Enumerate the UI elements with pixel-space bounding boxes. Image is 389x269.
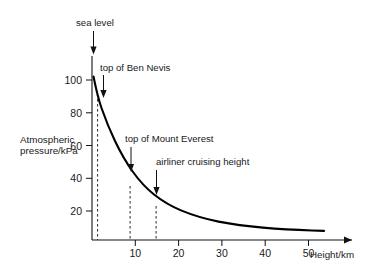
annotation-label-sea-level: sea level (76, 17, 114, 28)
pressure-curve-group (94, 77, 325, 231)
annotation-sea-level: sea level (76, 17, 114, 55)
annotation-label-airliner: airliner cruising height (156, 156, 250, 167)
annotation-label-ben-nevis: top of Ben Nevis (100, 62, 171, 73)
x-tick-label-10: 10 (129, 247, 141, 259)
axis-titles: Atmospheric pressure/kPa Height/km (20, 134, 354, 260)
x-tick-label-40: 40 (259, 247, 271, 259)
x-axis-arrow-icon (344, 237, 352, 244)
annotation-arrow-icon-ben-nevis (100, 90, 106, 98)
y-axis-title-line1: Atmospheric (20, 134, 75, 145)
x-axis-tick-labels: 10 20 30 40 50 (129, 247, 314, 259)
annotation-arrow-icon-sea-level (90, 47, 96, 55)
x-axis-ticks (135, 240, 308, 246)
y-tick-label-80: 80 (70, 107, 82, 119)
y-axis-ticks (86, 80, 92, 211)
y-tick-label-20: 20 (70, 205, 82, 217)
x-tick-label-20: 20 (173, 247, 185, 259)
y-axis-title-line2: pressure/kPa (20, 145, 78, 156)
annotation-ben-nevis: top of Ben Nevis (100, 62, 171, 98)
x-axis-title: Height/km (310, 249, 354, 260)
atmospheric-pressure-curve (94, 77, 325, 231)
annotation-label-mount-everest: top of Mount Everest (125, 133, 214, 144)
chart-svg: 100 80 60 40 20 10 20 30 40 50 Atmospher… (0, 0, 389, 269)
x-tick-label-30: 30 (216, 247, 228, 259)
annotation-airliner: airliner cruising height (153, 156, 249, 195)
atmospheric-pressure-chart: 100 80 60 40 20 10 20 30 40 50 Atmospher… (0, 0, 389, 269)
y-tick-label-40: 40 (70, 172, 82, 184)
y-tick-label-100: 100 (64, 74, 82, 86)
